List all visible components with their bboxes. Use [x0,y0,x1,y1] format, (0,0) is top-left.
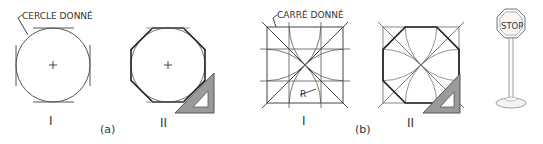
radius-label: R [300,89,306,99]
step-numeral: I [302,114,306,128]
step-numeral: I [49,114,53,128]
stop-sign-illustration: STOP [496,9,526,108]
octagon-construction-diagram: CERCLE DONNÉ I II (a) [0,0,543,144]
stop-sign-text: STOP [501,21,523,31]
circle-given-step-1: CERCLE DONNÉ I [16,10,93,128]
square-given-step-1: R CARRÉ DONNÉ I [260,9,350,128]
part-b-label: (b) [355,123,371,136]
octagon-from-square-step-2: II [378,22,464,130]
given-square-label: CARRÉ DONNÉ [277,9,344,20]
part-a-label: (a) [100,123,115,136]
given-circle-label: CERCLE DONNÉ [22,10,93,21]
set-square-icon [423,74,460,113]
octagon-from-circle-step-2: II [131,28,214,130]
step-numeral: II [160,116,167,130]
step-numeral: II [407,116,414,130]
set-square-icon [175,73,214,113]
